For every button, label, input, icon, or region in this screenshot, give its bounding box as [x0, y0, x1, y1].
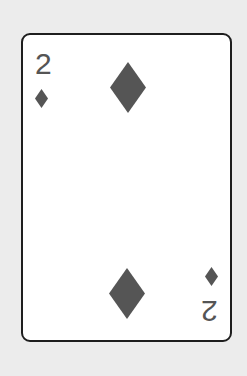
diamond-icon [110, 62, 146, 113]
rank-top-left: 2 [35, 49, 52, 79]
diamond-icon [109, 268, 145, 319]
diamond-icon [205, 267, 218, 286]
playing-card-two-of-diamonds[interactable]: 2 2 [21, 33, 232, 342]
rank-bottom-right: 2 [201, 296, 218, 326]
diamond-icon [35, 89, 48, 108]
